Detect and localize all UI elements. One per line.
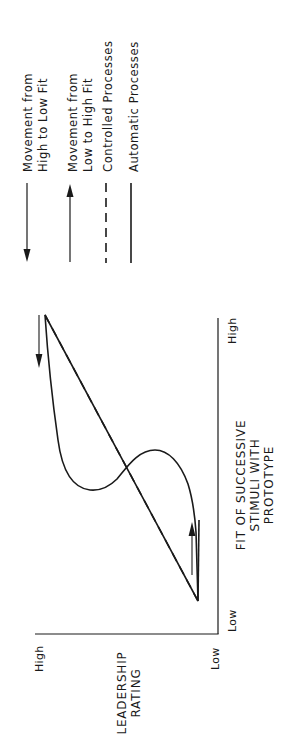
up-arrowhead-icon [67,184,74,197]
legend-item-low-to-high: Movement from Low to High Fit [66,73,95,262]
axes: High Low High Low FIT OF SUCCESSIVE STIM… [33,318,276,735]
rating-axis-high-label: High [33,646,46,672]
legend-label: Controlled Processes [101,41,115,173]
plot-area [36,315,199,601]
legend-item-automatic: Automatic Processes [127,41,141,263]
axis-title-line: LEADERSHIP [115,651,129,734]
legend-label-line-1: Movement from [66,73,80,172]
fit-axis-low-label: Low [226,609,239,632]
axis-title-line: STIMULI WITH [248,438,262,531]
axis-title-line: FIT OF SUCCESSIVE [234,420,248,551]
rating-axis-low-label: Low [209,647,222,670]
down-arrowhead-icon [24,249,31,262]
fit-axis-title: FIT OF SUCCESSIVE STIMULI WITH PROTOTYPE [234,420,276,551]
rating-axis-title: LEADERSHIP RATING [115,651,143,734]
legend-label: Automatic Processes [127,41,141,172]
legend-label-line-2: Low to High Fit [81,78,95,172]
axis-title-line: PROTOTYPE [262,446,276,524]
fit-axis-high-label: High [226,318,239,344]
legend-label-line-2: High to Low Fit [36,78,50,172]
legend-label-line-1: Movement from [21,73,35,172]
axis-title-line: RATING [129,668,143,717]
legend: Movement from High to Low Fit Movement f… [21,41,141,264]
automatic-processes-curve [45,315,198,601]
high-to-low-arrowhead-icon [36,354,43,368]
figure-canvas: Movement from High to Low Fit Movement f… [0,0,301,756]
legend-item-high-to-low: Movement from High to Low Fit [21,73,50,262]
legend-item-controlled: Controlled Processes [101,41,115,264]
low-to-high-arrowhead-icon [189,522,196,536]
automatic-processes-lower-branch [198,520,199,601]
